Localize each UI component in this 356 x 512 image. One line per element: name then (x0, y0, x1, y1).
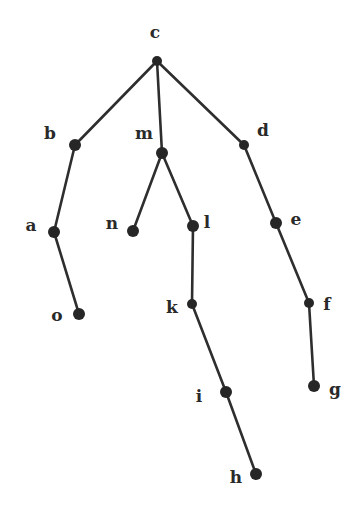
node-o (73, 308, 85, 320)
node-n (127, 225, 139, 237)
node-c (152, 56, 162, 66)
node-k (187, 299, 197, 309)
node-label-n: n (106, 215, 118, 232)
node-label-o: o (51, 307, 62, 324)
node-e (270, 217, 282, 229)
node-label-h: h (230, 469, 242, 486)
node-g (308, 380, 320, 392)
tree-canvas (0, 0, 356, 512)
node-label-e: e (291, 211, 302, 228)
node-h (250, 468, 262, 480)
edge-a-o (54, 232, 79, 314)
node-d (239, 140, 249, 150)
node-f (304, 298, 314, 308)
edge-f-g (309, 303, 314, 386)
edge-c-m (157, 61, 162, 153)
edge-m-n (133, 153, 162, 231)
node-b (69, 139, 81, 151)
edge-m-l (162, 153, 193, 226)
edge-d-e (244, 145, 276, 223)
node-i (220, 386, 232, 398)
edge-c-d (157, 61, 244, 145)
edge-k-i (192, 304, 226, 392)
node-a (48, 226, 60, 238)
node-label-c: c (150, 24, 160, 41)
node-label-l: l (204, 214, 210, 231)
edge-l-k (192, 226, 193, 304)
node-label-a: a (25, 217, 36, 234)
edge-b-a (54, 145, 75, 232)
node-label-d: d (257, 122, 269, 139)
tree-nodes (48, 56, 320, 480)
tree-edges (54, 61, 314, 474)
edge-i-h (226, 392, 256, 474)
node-m (156, 147, 168, 159)
node-label-m: m (135, 125, 153, 142)
node-label-k: k (166, 299, 178, 316)
node-label-g: g (329, 381, 341, 398)
edge-e-f (276, 223, 309, 303)
node-label-f: f (323, 296, 330, 313)
node-label-b: b (44, 125, 56, 142)
node-l (187, 220, 199, 232)
node-label-i: i (196, 388, 202, 405)
